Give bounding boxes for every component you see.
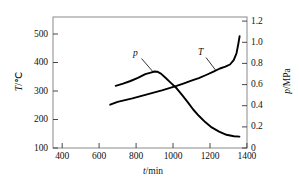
ytick-label-left-2: 200 — [22, 114, 48, 124]
y-axis-title-left: T/℃ — [13, 58, 24, 106]
ytick-label-right-2: 0.2 — [251, 121, 277, 131]
y-axis-title-right-symbol: p — [282, 89, 292, 94]
series-curve-T — [110, 36, 239, 104]
chart-figure: 100 200 300 400 500 0 0.2 0.4 0.6 0.8 1.… — [0, 0, 299, 186]
xtick-label-5: 1200 — [192, 151, 228, 161]
series-annotation-T: T — [198, 47, 203, 57]
annotation-leader-T — [206, 58, 216, 71]
axis-frame — [53, 17, 247, 148]
xtick-label-6: 1400 — [229, 151, 265, 161]
ytick-label-right-5: 0.8 — [251, 58, 277, 68]
xtick-label-4: 1000 — [155, 151, 191, 161]
left-axis-ticks — [53, 34, 58, 148]
annotation-leader-p — [142, 59, 153, 72]
x-axis-title-unit: /min — [146, 166, 163, 176]
y-axis-title-right: p/MPa — [282, 51, 292, 111]
bottom-axis-ticks — [62, 143, 247, 148]
series-curve-p — [116, 72, 240, 137]
y-axis-title-right-unit: /MPa — [282, 68, 292, 89]
xtick-label-2: 600 — [81, 151, 117, 161]
ytick-label-right-3: 0.4 — [251, 100, 277, 110]
ytick-label-right-7: 1.2 — [251, 16, 277, 26]
ytick-label-left-3: 300 — [22, 86, 48, 96]
series-annotation-p: p — [133, 48, 138, 58]
xtick-label-1: 400 — [44, 151, 80, 161]
ytick-label-left-4: 400 — [22, 57, 48, 67]
right-axis-ticks — [242, 21, 247, 148]
ytick-label-left-5: 500 — [22, 29, 48, 39]
xtick-label-3: 800 — [118, 151, 154, 161]
x-axis-title: t/min — [125, 166, 181, 176]
ytick-label-right-6: 1.0 — [251, 37, 277, 47]
ytick-label-right-4: 0.6 — [251, 79, 277, 89]
y-axis-title-left-symbol: T — [14, 86, 24, 91]
y-axis-title-left-unit: /℃ — [14, 72, 24, 86]
